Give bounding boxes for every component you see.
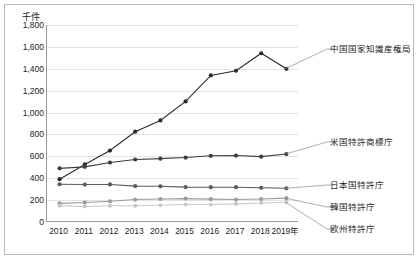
data-point-marker [234,69,238,73]
data-point-marker [184,99,188,103]
data-point-marker [133,204,137,208]
data-point-marker [284,186,288,190]
data-point-marker [234,197,238,201]
series-line [60,53,287,179]
y-axis-tick-labels: 02004006008001,0001,2001,4001,6001,800 [0,25,44,222]
data-point-marker [158,197,162,201]
data-point-marker [133,157,137,161]
y-axis-tick: 600 [0,152,44,161]
data-point-marker [234,202,238,206]
y-axis-tick: 1,600 [0,43,44,52]
data-point-marker [259,51,263,55]
data-point-marker [284,67,288,71]
series-line [60,202,287,206]
data-point-marker [108,199,112,203]
series-line [60,184,287,188]
y-axis-tick: 400 [0,174,44,183]
data-point-marker [108,148,112,152]
x-axis-tick: 2013 [120,226,148,236]
data-point-marker [209,154,213,158]
data-point-marker [83,165,87,169]
data-point-marker [259,155,263,159]
data-point-marker [184,202,188,206]
series-line [60,154,287,168]
data-point-marker [284,200,288,204]
data-point-marker [58,203,62,207]
x-axis-tick: 2012 [95,226,123,236]
x-axis-tick: 2015 [171,226,199,236]
y-axis-tick: 800 [0,130,44,139]
data-point-marker [284,152,288,156]
x-axis-tick-labels: 2010201120122013201420152016201720182019… [46,226,308,240]
data-point-marker [83,200,87,204]
data-point-marker [209,202,213,206]
data-point-marker [58,177,62,181]
data-point-marker [259,201,263,205]
y-axis-tick: 200 [0,196,44,205]
data-point-marker [133,184,137,188]
series-line [60,198,287,203]
x-axis-tick: 2017 [221,226,249,236]
data-point-marker [259,186,263,190]
data-point-marker [209,73,213,77]
data-point-marker [158,203,162,207]
data-point-marker [184,196,188,200]
data-point-marker [133,197,137,201]
data-point-marker [259,197,263,201]
x-axis-tick: 2011 [70,226,98,236]
data-point-marker [83,204,87,208]
data-point-marker [184,155,188,159]
data-point-marker [158,118,162,122]
data-point-marker [108,204,112,208]
x-axis-tick: 2019年 [271,226,299,236]
chart-figure: 千件 02004006008001,0001,2001,4001,6001,80… [0,0,419,260]
y-axis-tick: 1,800 [0,21,44,30]
data-point-marker [58,182,62,186]
y-axis-tick: 1,400 [0,65,44,74]
y-axis-tick: 1,200 [0,87,44,96]
data-point-marker [108,160,112,164]
data-point-marker [209,185,213,189]
data-point-marker [234,153,238,157]
data-point-marker [158,184,162,188]
data-point-marker [83,182,87,186]
data-point-marker [234,185,238,189]
data-point-marker [58,166,62,170]
y-axis-tick: 1,000 [0,109,44,118]
data-point-marker [158,157,162,161]
x-axis-tick: 2010 [45,226,73,236]
data-point-marker [284,196,288,200]
y-axis-tick: 0 [0,218,44,227]
data-point-marker [209,197,213,201]
x-axis-tick: 2014 [145,226,173,236]
data-point-marker [184,185,188,189]
plot-area [46,25,298,222]
series-lines [47,25,299,222]
data-point-marker [133,130,137,134]
x-axis-tick: 2018 [246,226,274,236]
data-point-marker [108,182,112,186]
x-axis-tick: 2016 [196,226,224,236]
